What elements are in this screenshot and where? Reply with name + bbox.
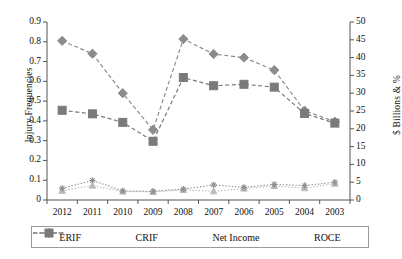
marker-star: [59, 185, 65, 191]
marker-square: [58, 106, 66, 114]
marker-star: [180, 186, 186, 192]
marker-diamond: [88, 49, 97, 58]
series-erif: [59, 180, 338, 194]
chart-legend: ERIFCRIFNet IncomeROCE: [31, 226, 369, 248]
marker-diamond: [209, 49, 218, 58]
marker-square: [149, 137, 157, 145]
marker-square: [88, 110, 96, 118]
marker-star: [120, 188, 126, 194]
marker-diamond: [239, 53, 248, 62]
marker-star: [241, 184, 247, 190]
marker-square: [331, 119, 339, 127]
marker-diamond: [270, 65, 279, 74]
marker-square: [179, 74, 187, 82]
marker-star: [301, 182, 307, 188]
legend-label: Net Income: [212, 232, 259, 243]
legend-label: CRIF: [136, 232, 158, 243]
legend-item-crif[interactable]: CRIF: [136, 232, 158, 243]
marker-square: [210, 82, 218, 90]
series-roce: [58, 74, 339, 146]
series-net-income: [58, 34, 340, 134]
marker-star: [332, 179, 338, 185]
marker-star: [89, 177, 95, 183]
series-crif: [59, 177, 338, 194]
legend-item-net-income[interactable]: Net Income: [212, 232, 259, 243]
marker-square: [301, 109, 309, 117]
marker-square: [240, 80, 248, 88]
marker-star: [210, 182, 216, 188]
legend-item-roce[interactable]: ROCE: [314, 232, 341, 243]
marker-square: [119, 118, 127, 126]
marker-square: [45, 229, 53, 237]
marker-diamond: [58, 36, 67, 45]
legend-label: ROCE: [314, 232, 341, 243]
marker-square: [270, 83, 278, 91]
legend-symbol-square-icon: [32, 227, 66, 239]
marker-diamond: [179, 34, 188, 43]
